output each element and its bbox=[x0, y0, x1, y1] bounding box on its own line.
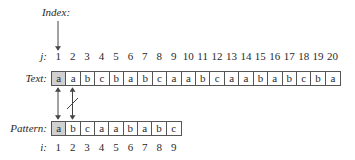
arrows-layer bbox=[0, 0, 355, 160]
